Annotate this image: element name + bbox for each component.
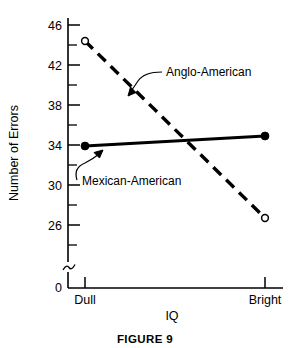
x-axis-title: IQ bbox=[165, 309, 178, 323]
chart-plot: 46 42 38 34 30 26 0 Number of Errors Dul… bbox=[0, 0, 290, 348]
series-line-mexican-american bbox=[85, 136, 265, 146]
y-tick-label-zero: 0 bbox=[55, 281, 62, 295]
data-point-mexican-american-dull bbox=[81, 142, 89, 150]
y-axis-title: Number of Errors bbox=[7, 105, 21, 201]
data-point-anglo-american-dull bbox=[82, 38, 89, 45]
figure-container: 46 42 38 34 30 26 0 Number of Errors Dul… bbox=[0, 0, 290, 348]
x-ticks bbox=[85, 277, 265, 288]
figure-caption: FIGURE 9 bbox=[117, 333, 173, 345]
x-tick-label-dull: Dull bbox=[74, 293, 96, 307]
leader-arrow-anglo-american bbox=[128, 87, 136, 96]
y-tick-label-38: 38 bbox=[48, 99, 62, 113]
series-label-anglo-american: Anglo-American bbox=[166, 65, 251, 79]
data-point-mexican-american-bright bbox=[261, 132, 269, 140]
data-point-anglo-american-bright bbox=[262, 215, 269, 222]
x-tick-label-bright: Bright bbox=[249, 293, 282, 307]
y-tick-label-42: 42 bbox=[48, 59, 62, 73]
y-tick-label-46: 46 bbox=[48, 19, 62, 33]
series-label-mexican-american: Mexican-American bbox=[82, 174, 181, 188]
y-tick-label-30: 30 bbox=[48, 179, 62, 193]
y-tick-label-34: 34 bbox=[48, 139, 62, 153]
axis-break-icon bbox=[63, 265, 75, 271]
y-tick-label-26: 26 bbox=[48, 219, 62, 233]
